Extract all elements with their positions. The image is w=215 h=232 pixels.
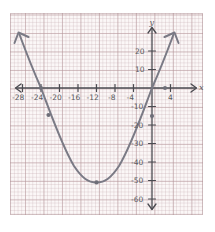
x-axis-name-label: x bbox=[199, 84, 204, 92]
plot-svg bbox=[0, 0, 215, 232]
x-tick-label--4: -4 bbox=[127, 94, 134, 102]
parabola-curve-group bbox=[15, 33, 179, 183]
point-left-point bbox=[46, 113, 50, 117]
parabola-curve bbox=[20, 35, 174, 183]
x-tick-label-4: 4 bbox=[168, 94, 173, 102]
y-tick-label--50: -50 bbox=[131, 177, 143, 185]
y-tick-label--20: -20 bbox=[131, 122, 143, 130]
y-tick-label--40: -40 bbox=[131, 159, 143, 167]
point-right-root bbox=[163, 86, 167, 90]
x-tick-label--16: -16 bbox=[68, 94, 80, 102]
x-tick-label--24: -24 bbox=[31, 94, 43, 102]
y-tick-label-10: 10 bbox=[135, 66, 145, 74]
coordinate-plane-figure: -28 -24 -20 -16 -12 -8 -4 4 20 10 -10 -2… bbox=[0, 0, 215, 232]
y-tick-label--10: -10 bbox=[131, 103, 143, 111]
y-tick-label--30: -30 bbox=[131, 140, 143, 148]
point-left-root bbox=[39, 86, 43, 90]
y-tick-label-20: 20 bbox=[135, 48, 145, 56]
x-tick-label--12: -12 bbox=[87, 94, 99, 102]
y-axis-name-label: y bbox=[150, 19, 155, 27]
point-vertex bbox=[94, 180, 98, 184]
x-tick-label--28: -28 bbox=[12, 94, 24, 102]
point-y-intercept bbox=[150, 114, 154, 118]
x-tick-label--8: -8 bbox=[108, 94, 115, 102]
axes-group bbox=[16, 28, 197, 210]
y-tick-label--60: -60 bbox=[131, 196, 143, 204]
x-tick-label--20: -20 bbox=[50, 94, 62, 102]
